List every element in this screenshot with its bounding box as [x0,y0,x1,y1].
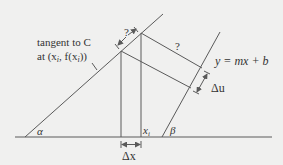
alpha-label: α [37,125,43,137]
dimension-arrow-top [118,37,126,45]
dimension-arrow-top-2 [128,29,136,35]
delta-x-label: Δx [122,149,136,163]
beta-label: β [169,124,176,136]
dimension-arrow-du-2 [197,83,202,92]
tangent-label-line1: tangent to C [37,36,91,48]
diagram-canvas: tangent to C at (xi, f(xi)) ? ? y = mx +… [0,0,283,165]
question-label-right: ? [175,40,180,52]
x-i-label: xi [142,124,150,138]
question-label-top: ? [124,26,129,38]
label-leader [92,63,97,70]
perpendicular-lower [121,51,191,88]
dimension-arrow-du [202,74,207,83]
dimension-tick-du-top [204,71,210,74]
line-equation-label: y = mx + b [214,54,269,68]
tangent-line [25,14,163,137]
delta-u-label: Δu [211,81,225,95]
dimension-tick-du-bottom [193,91,199,94]
tangent-label-line2: at (xi, f(xi)) [37,50,87,64]
perpendicular-upper [141,33,202,68]
